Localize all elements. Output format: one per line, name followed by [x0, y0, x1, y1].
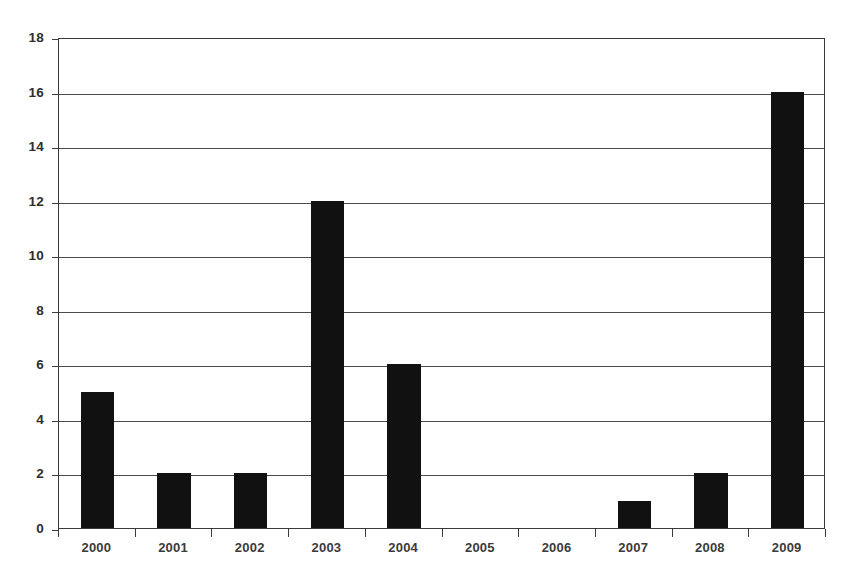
bar: [618, 501, 651, 528]
bar: [81, 392, 114, 528]
y-axis-tick-label: 4: [36, 413, 44, 427]
x-axis-tick-label: 2000: [58, 540, 135, 556]
y-axis-tick: [52, 39, 59, 40]
x-axis-tick: [825, 529, 826, 537]
y-axis-tick: [52, 203, 59, 204]
y-axis-tick: [52, 475, 59, 476]
y-axis-tick: [52, 312, 59, 313]
x-axis-labels: 2000200120022003200420052006200720082009: [58, 540, 825, 564]
x-axis-tick-label: 2004: [365, 540, 442, 556]
y-axis-labels: 024681012141618: [0, 0, 44, 588]
bar: [311, 201, 344, 528]
y-axis-tick-label: 12: [28, 195, 44, 209]
y-axis-tick: [52, 257, 59, 258]
x-axis-tick: [365, 529, 366, 537]
x-axis-tick: [288, 529, 289, 537]
bar-chart: 024681012141618 200020012002200320042005…: [0, 0, 855, 588]
y-axis-tick-label: 2: [36, 467, 44, 481]
y-axis-tick: [52, 421, 59, 422]
y-axis-tick-label: 14: [28, 140, 44, 154]
x-axis-tick-label: 2007: [595, 540, 672, 556]
bar: [234, 473, 267, 528]
x-axis-tick: [672, 529, 673, 537]
y-axis-tick-label: 8: [36, 304, 44, 318]
x-axis-tick: [135, 529, 136, 537]
x-axis-tick-label: 2008: [672, 540, 749, 556]
y-axis-tick-label: 0: [36, 522, 44, 536]
y-axis-tick-label: 10: [28, 249, 44, 263]
gridline: [59, 421, 824, 422]
x-axis-tick-label: 2002: [211, 540, 288, 556]
gridline: [59, 366, 824, 367]
gridline: [59, 257, 824, 258]
x-axis-tick: [595, 529, 596, 537]
y-axis-tick: [52, 94, 59, 95]
plot-area: [58, 38, 825, 529]
x-axis-tick: [58, 529, 59, 537]
x-axis-tick-label: 2006: [518, 540, 595, 556]
x-axis-tick-label: 2009: [748, 540, 825, 556]
bar: [771, 92, 804, 528]
y-axis-tick: [52, 148, 59, 149]
x-axis-tick-label: 2001: [135, 540, 212, 556]
x-axis-tick: [211, 529, 212, 537]
x-axis-tick: [748, 529, 749, 537]
y-axis-tick-label: 6: [36, 358, 44, 372]
gridline: [59, 203, 824, 204]
x-axis-tick-label: 2005: [442, 540, 519, 556]
bar: [387, 364, 420, 528]
gridline: [59, 312, 824, 313]
x-axis-tick-label: 2003: [288, 540, 365, 556]
y-axis-tick: [52, 366, 59, 367]
gridline: [59, 94, 824, 95]
x-axis-tick: [442, 529, 443, 537]
y-axis-tick-label: 18: [28, 31, 44, 45]
x-axis-tick: [518, 529, 519, 537]
gridline: [59, 148, 824, 149]
bar: [694, 473, 727, 528]
bar: [157, 473, 190, 528]
y-axis-tick-label: 16: [28, 86, 44, 100]
